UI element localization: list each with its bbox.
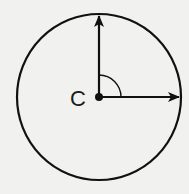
center-label: C — [70, 86, 86, 111]
circle-diagram: C — [0, 0, 189, 194]
angle-arc — [99, 75, 121, 97]
diagram-canvas: C — [0, 0, 189, 194]
center-point — [95, 93, 103, 101]
